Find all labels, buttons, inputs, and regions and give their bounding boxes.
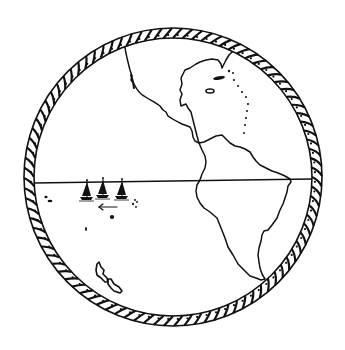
sailboats-group xyxy=(79,177,129,201)
island-north-2 xyxy=(206,89,214,93)
arrow-left-icon xyxy=(99,204,117,210)
island-north-1 xyxy=(213,75,225,81)
globe-illustration xyxy=(0,0,345,350)
sailboat-icon xyxy=(95,177,110,199)
equator-line xyxy=(34,179,312,183)
south-america xyxy=(196,135,291,280)
globe-map xyxy=(0,0,345,350)
north-america-east-coast xyxy=(180,52,232,143)
rope-twist-strands xyxy=(24,28,322,326)
dotted-island-chain xyxy=(228,70,249,134)
north-america-west-coast xyxy=(124,40,199,143)
southern-islands xyxy=(96,262,108,282)
southern-islands-2 xyxy=(108,279,122,293)
rope-border xyxy=(24,28,322,326)
